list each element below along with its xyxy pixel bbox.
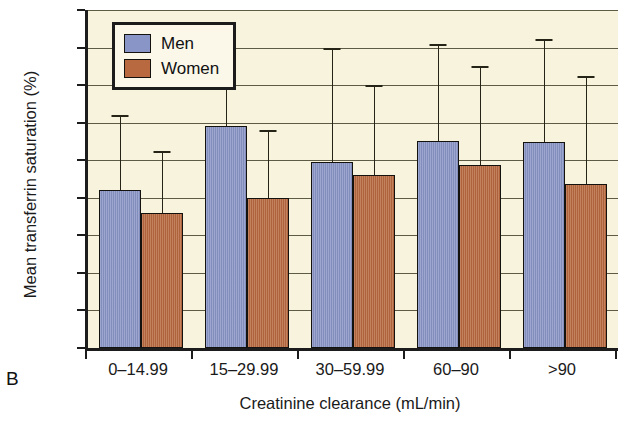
x-tick-label-3: 60–90 xyxy=(433,360,479,379)
error-bar-men-30–59.99 xyxy=(332,48,333,162)
y-tick-mark-35 xyxy=(77,84,85,86)
error-cap-men-0–14.99 xyxy=(112,115,129,117)
legend-label-women: Women xyxy=(161,60,219,77)
x-tick-label-0: 0–14.99 xyxy=(108,360,168,379)
error-cap-women->90 xyxy=(578,76,595,78)
error-cap-women-60–90 xyxy=(472,66,489,68)
y-tick-mark-30 xyxy=(77,122,85,124)
error-bar-women-15–29.99 xyxy=(268,130,269,198)
x-tick-mark-4 xyxy=(509,348,511,359)
plot-area: Men Women xyxy=(85,10,618,351)
bar-women-0–14.99 xyxy=(141,213,183,348)
women-color-swatch xyxy=(124,59,151,78)
x-tick-mark-3 xyxy=(403,348,405,359)
y-tick-mark-15 xyxy=(77,234,85,236)
chart-legend: Men Women xyxy=(112,22,236,90)
y-tick-mark-45 xyxy=(77,9,85,11)
x-tick-label-2: 30–59.99 xyxy=(316,360,385,379)
x-axis-title: Creatinine clearance (mL/min) xyxy=(85,394,615,413)
legend-item-men: Men xyxy=(124,31,219,56)
error-cap-women-15–29.99 xyxy=(260,130,277,132)
error-cap-men-30–59.99 xyxy=(324,48,341,50)
y-tick-mark-5 xyxy=(77,309,85,311)
y-axis-title: Mean transferrin saturation (%) xyxy=(21,15,40,355)
bar-men-0–14.99 xyxy=(99,190,141,348)
legend-label-men: Men xyxy=(161,35,194,52)
bar-women-15–29.99 xyxy=(247,198,289,348)
x-tick-label-4: >90 xyxy=(548,360,576,379)
error-bar-women->90 xyxy=(586,76,587,184)
error-cap-women-0–14.99 xyxy=(154,151,171,153)
error-bar-women-0–14.99 xyxy=(162,151,163,213)
men-color-swatch xyxy=(124,34,151,53)
y-tick-mark-0 xyxy=(77,347,85,349)
bar-men-60–90 xyxy=(417,141,459,348)
error-bar-women-30–59.99 xyxy=(374,85,375,175)
y-tick-mark-20 xyxy=(77,197,85,199)
error-bar-men->90 xyxy=(544,39,545,143)
y-tick-mark-10 xyxy=(77,272,85,274)
gridline-30 xyxy=(88,123,618,124)
error-cap-men-60–90 xyxy=(430,44,447,46)
gridline-45 xyxy=(88,10,618,11)
panel-letter: B xyxy=(6,368,19,390)
error-cap-men->90 xyxy=(536,39,553,41)
legend-item-women: Women xyxy=(124,56,219,81)
error-bar-men-0–14.99 xyxy=(120,115,121,190)
x-tick-label-1: 15–29.99 xyxy=(210,360,279,379)
error-bar-men-60–90 xyxy=(438,44,439,142)
error-bar-women-60–90 xyxy=(480,66,481,165)
y-tick-mark-25 xyxy=(77,159,85,161)
x-tick-mark-2 xyxy=(297,348,299,359)
bar-men->90 xyxy=(523,142,565,348)
y-tick-mark-40 xyxy=(77,47,85,49)
x-tick-mark-5 xyxy=(615,348,617,359)
error-cap-women-30–59.99 xyxy=(366,85,383,87)
bar-men-15–29.99 xyxy=(205,126,247,348)
x-tick-mark-1 xyxy=(191,348,193,359)
bar-women->90 xyxy=(565,184,607,348)
bar-men-30–59.99 xyxy=(311,162,353,348)
bar-women-30–59.99 xyxy=(353,175,395,348)
x-tick-mark-0 xyxy=(85,348,87,359)
bar-women-60–90 xyxy=(459,165,501,348)
